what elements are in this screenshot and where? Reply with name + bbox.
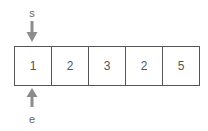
- cell-value: 3: [104, 59, 111, 73]
- array: 1 2 3 2 5: [14, 46, 200, 86]
- array-cell: 1: [14, 47, 51, 85]
- up-arrow-icon: [26, 88, 38, 108]
- end-pointer-label: e: [22, 113, 42, 125]
- cell-value: 2: [67, 59, 74, 73]
- array-cell: 5: [162, 47, 200, 85]
- array-cell: 2: [51, 47, 88, 85]
- array-cell: 3: [88, 47, 125, 85]
- array-cell: 2: [125, 47, 162, 85]
- cell-value: 2: [141, 59, 148, 73]
- down-arrow-icon: [26, 21, 38, 43]
- cell-value: 5: [178, 59, 185, 73]
- start-pointer-label: s: [22, 7, 42, 19]
- cell-value: 1: [30, 59, 37, 73]
